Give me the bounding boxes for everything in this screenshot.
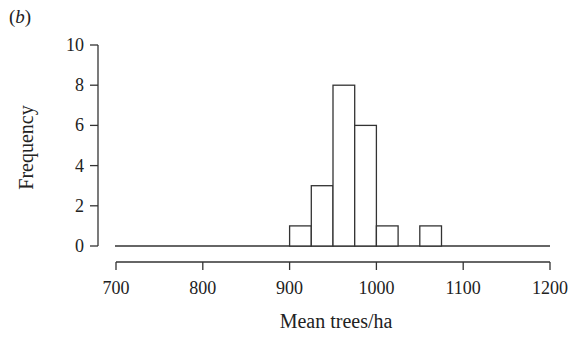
y-tick-label: 4 bbox=[75, 156, 84, 176]
x-tick-label: 1100 bbox=[446, 278, 481, 298]
x-tick-label: 700 bbox=[103, 278, 130, 298]
y-tick-label: 10 bbox=[66, 35, 84, 55]
histogram-bar bbox=[333, 85, 355, 246]
y-axis-title: Frequency bbox=[15, 105, 38, 189]
histogram-chart: 0246810700800900100011001200Mean trees/h… bbox=[0, 0, 576, 346]
y-tick-label: 0 bbox=[75, 236, 84, 256]
y-tick-label: 6 bbox=[75, 115, 84, 135]
histogram-bar bbox=[420, 226, 442, 246]
x-tick-label: 900 bbox=[276, 278, 303, 298]
y-tick-label: 8 bbox=[75, 75, 84, 95]
x-axis-title: Mean trees/ha bbox=[280, 310, 393, 332]
histogram-bar bbox=[376, 226, 398, 246]
y-tick-label: 2 bbox=[75, 196, 84, 216]
x-tick-label: 1000 bbox=[358, 278, 394, 298]
histogram-bar bbox=[311, 186, 333, 246]
x-tick-label: 1200 bbox=[532, 278, 568, 298]
histogram-bar bbox=[355, 125, 377, 246]
histogram-bar bbox=[290, 226, 312, 246]
x-tick-label: 800 bbox=[189, 278, 216, 298]
